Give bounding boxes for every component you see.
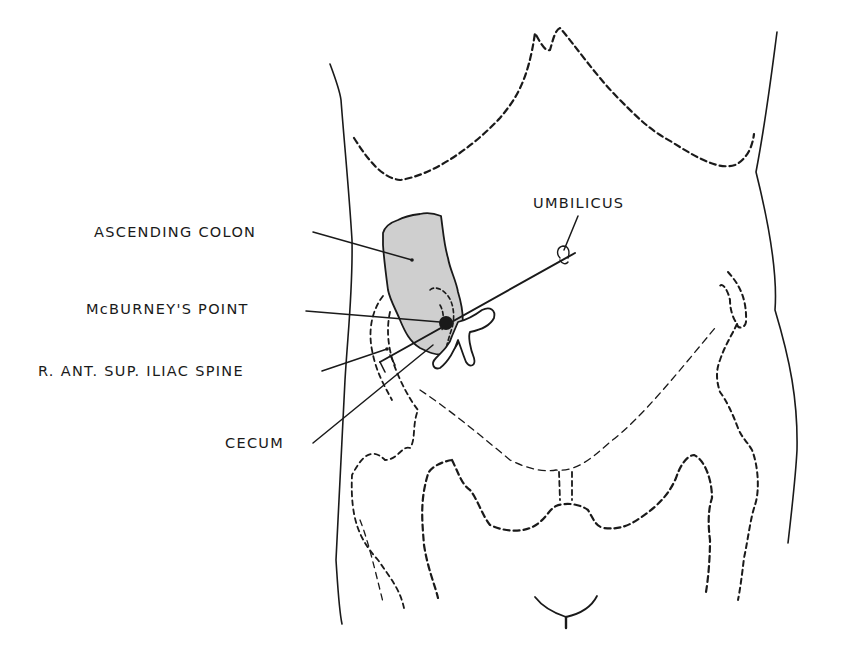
body-outline-left xyxy=(330,64,352,624)
genital-outline xyxy=(535,596,597,617)
costal-margin xyxy=(354,28,754,180)
label-cecum: CECUM xyxy=(225,436,284,451)
label-ascending-colon: ASCENDING COLON xyxy=(94,225,256,240)
label-iliac-spine: R. ANT. SUP. ILIAC SPINE xyxy=(38,364,244,379)
body-outline-right xyxy=(756,32,797,543)
pelvis-outline xyxy=(422,455,712,598)
left-iliac-crest xyxy=(717,272,758,600)
leader-dot-spine xyxy=(385,347,389,351)
leader-umbilicus xyxy=(564,216,578,250)
leader-cecum xyxy=(313,345,433,443)
right-iliac-crest-inner xyxy=(352,312,418,608)
mcburneys-point-marker xyxy=(439,316,453,330)
label-umbilicus: UMBILICUS xyxy=(533,196,624,211)
pubic-symphysis xyxy=(559,472,572,500)
anatomy-drawing xyxy=(0,0,843,664)
leader-dot-colon xyxy=(410,258,414,262)
label-mcburneys-point: McBURNEY'S POINT xyxy=(86,302,249,317)
abdomen-diagram: ASCENDING COLON McBURNEY'S POINT R. ANT.… xyxy=(0,0,843,664)
